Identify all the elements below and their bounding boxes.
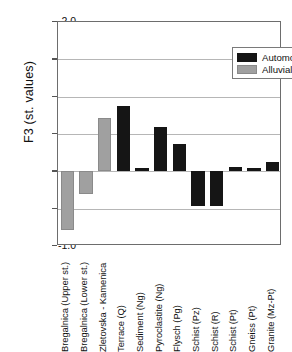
legend-item: Alluvial soil — [237, 63, 292, 75]
legend-label: Automorfic soil — [262, 52, 292, 63]
plot-area: Automorfic soilAlluvial soil — [57, 21, 281, 245]
legend-label: Alluvial soil — [262, 64, 292, 75]
bar — [247, 168, 260, 172]
x-axis-tick-label: Sediment (Ng) — [135, 292, 145, 352]
bar — [61, 171, 74, 230]
bar — [135, 168, 148, 171]
x-axis-tick-label: Schist (R) — [210, 311, 220, 352]
bar — [98, 118, 111, 172]
bar — [266, 162, 279, 172]
bar — [229, 167, 242, 171]
x-axis-tick-label: Schist (Pt) — [228, 309, 238, 352]
legend-swatch-icon — [237, 65, 257, 74]
legend-swatch-icon — [237, 53, 257, 62]
x-axis-tick-label: Terrace (Q) — [116, 305, 126, 352]
bar — [79, 171, 92, 193]
bar-chart: F3 (st. values) 2.01.51.00.50.0-0.5-1.0 … — [0, 0, 292, 352]
x-axis-tick-label: Flysch (Pg) — [172, 305, 182, 352]
x-axis-tick-label: Bregalnica (Upper st.) — [60, 262, 70, 352]
gridline — [58, 134, 280, 135]
bar — [117, 106, 130, 172]
legend-item: Automorfic soil — [237, 51, 292, 63]
y-axis-title: F3 (st. values) — [22, 32, 36, 172]
x-axis-tick-label: Granite (Mz-Pt) — [266, 289, 276, 352]
x-axis-tick-label: Gneiss (Pt) — [247, 306, 257, 352]
bar — [154, 127, 167, 172]
y-axis-tick-mark — [52, 245, 57, 246]
gridline — [58, 97, 280, 98]
x-axis-tick-label: Schist (Pz) — [191, 307, 201, 352]
x-axis-tick-label: Zletovska - Kamenica — [98, 263, 108, 352]
bar — [173, 144, 186, 171]
x-axis-label-group: Bregalnica (Upper st.)Bregalnica (Lower … — [57, 247, 281, 352]
bar — [210, 171, 223, 205]
gridline — [58, 209, 280, 210]
chart-legend: Automorfic soilAlluvial soil — [232, 47, 292, 79]
x-axis-tick-label: Pyroclastite (Ng) — [154, 284, 164, 352]
bar — [191, 171, 204, 205]
x-axis-tick-label: Bregalnica (Lower st.) — [79, 262, 89, 352]
